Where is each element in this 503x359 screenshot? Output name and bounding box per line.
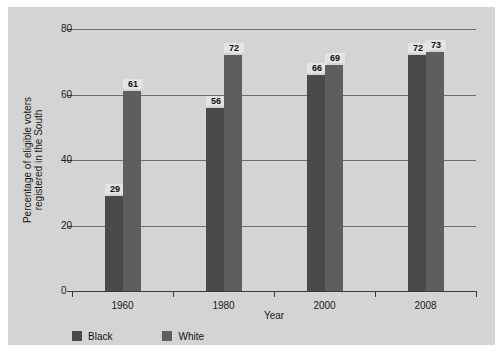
gridline	[72, 29, 476, 30]
bar	[426, 52, 444, 291]
legend-swatch-icon	[72, 331, 82, 341]
y-axis-title-line2: registered in the South	[33, 110, 44, 211]
plot-area: 0204060802961567266697273	[72, 29, 476, 291]
y-axis-title: Percentage of eligible voters registered…	[22, 29, 44, 291]
bar-value-label: 56	[206, 96, 226, 106]
bar-value-label: 72	[408, 43, 428, 53]
chart-legend: BlackWhite	[72, 329, 254, 343]
bar-value-label: 29	[105, 184, 125, 194]
bar	[408, 55, 426, 291]
legend-label: White	[178, 331, 204, 342]
bar-value-label: 66	[307, 63, 327, 73]
legend-label: Black	[88, 331, 112, 342]
y-axis-title-line1: Percentage of eligible voters	[22, 97, 33, 223]
bar	[206, 108, 224, 291]
legend-swatch-icon	[162, 331, 172, 341]
legend-item[interactable]: Black	[72, 331, 112, 342]
bar	[224, 55, 242, 291]
x-axis-line	[72, 291, 476, 292]
bar-value-label: 69	[325, 53, 345, 63]
bar-value-label: 72	[224, 43, 244, 53]
bar	[325, 65, 343, 291]
legend-item[interactable]: White	[162, 331, 204, 342]
x-axis-title: Year	[72, 310, 476, 321]
bar	[105, 196, 123, 291]
chart-figure: Percentage of eligible voters registered…	[8, 7, 495, 345]
bar	[123, 91, 141, 291]
bar-value-label: 61	[123, 79, 143, 89]
bar	[307, 75, 325, 291]
bar-value-label: 73	[426, 40, 446, 50]
x-tick-mark	[476, 291, 477, 297]
